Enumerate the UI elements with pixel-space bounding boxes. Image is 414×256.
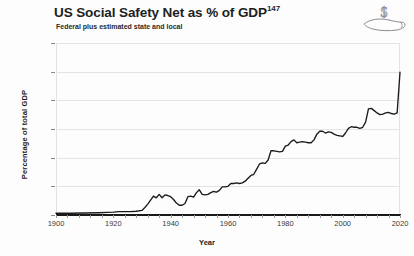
y-axis-tick-mark [51, 100, 55, 101]
x-axis-minor-tick [239, 215, 240, 218]
x-axis-minor-tick [251, 215, 252, 218]
x-axis-minor-tick [297, 215, 298, 218]
x-axis-minor-tick [308, 215, 309, 218]
plot-area [56, 43, 400, 215]
y-axis-tick-mark [51, 72, 55, 73]
x-axis-minor-tick [159, 215, 160, 218]
x-axis-minor-tick [377, 215, 378, 218]
x-axis-tick-label: 1960 [220, 219, 237, 228]
series-layer [56, 43, 400, 215]
x-axis-tick-label: 2000 [334, 219, 351, 228]
x-axis-title: Year [0, 238, 414, 247]
x-axis-minor-tick [171, 215, 172, 218]
x-axis-tick-label: 1940 [162, 219, 179, 228]
x-axis-minor-tick [67, 215, 68, 218]
x-axis-tick-label: 1980 [277, 219, 294, 228]
x-axis-minor-tick [136, 215, 137, 218]
y-axis-tick-mark [51, 129, 55, 130]
x-axis-minor-tick [205, 215, 206, 218]
chart-title-text: US Social Safety Net as % of GDP [54, 5, 267, 20]
x-axis-minor-tick [285, 215, 286, 218]
x-axis-minor-tick [343, 215, 344, 218]
chart-title-superscript: 147 [267, 4, 280, 13]
x-axis-tick-label: 2020 [392, 219, 409, 228]
svg-text:$: $ [381, 5, 388, 20]
x-axis-minor-tick [148, 215, 149, 218]
x-axis-minor-tick [400, 215, 401, 218]
x-axis-minor-tick [113, 215, 114, 218]
y-axis-tick-mark [51, 186, 55, 187]
x-axis-tick-label: 1920 [105, 219, 122, 228]
x-axis-minor-tick [389, 215, 390, 218]
x-axis-minor-tick [320, 215, 321, 218]
x-axis-tick-label: 1900 [48, 219, 65, 228]
x-axis-minor-tick [90, 215, 91, 218]
y-axis-tick-mark [51, 158, 55, 159]
x-axis-minor-tick [194, 215, 195, 218]
series-line [56, 72, 400, 213]
x-axis-minor-tick [262, 215, 263, 218]
x-axis-minor-tick [102, 215, 103, 218]
hand-holding-dollar-icon: $ [360, 2, 410, 36]
chart-title: US Social Safety Net as % of GDP147 [54, 4, 280, 20]
x-axis-minor-tick [274, 215, 275, 218]
x-axis-minor-tick [228, 215, 229, 218]
y-axis-title: Percentage of total GDP [20, 55, 29, 215]
x-axis-minor-tick [217, 215, 218, 218]
x-axis-minor-tick [366, 215, 367, 218]
x-axis-minor-tick [79, 215, 80, 218]
x-axis-minor-tick [56, 215, 57, 218]
y-axis-tick-mark [51, 43, 55, 44]
x-axis-minor-tick [354, 215, 355, 218]
x-axis-minor-tick [331, 215, 332, 218]
y-axis-tick-mark [51, 215, 55, 216]
chart-subtitle: Federal plus estimated state and local [56, 23, 182, 30]
x-axis-minor-tick [125, 215, 126, 218]
chart-figure: US Social Safety Net as % of GDP147 Fede… [0, 0, 414, 256]
x-axis-minor-tick [182, 215, 183, 218]
